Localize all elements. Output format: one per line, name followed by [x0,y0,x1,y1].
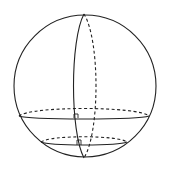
small-section-front [41,142,127,145]
sphere-figure [0,0,170,172]
large-section-front [19,116,149,119]
sphere-diagram [0,0,170,172]
sphere-outline [14,15,156,157]
small-section-back [41,137,127,142]
large-section-back [19,109,149,117]
